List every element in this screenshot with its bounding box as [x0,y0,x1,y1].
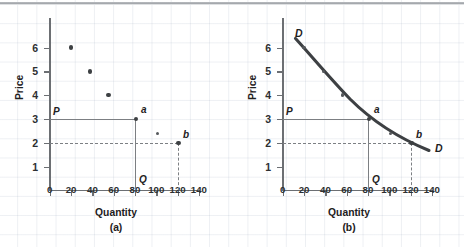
y-axis-line-a [49,18,51,190]
plot-area-b: 6 5 4 3 2 1 0 20 40 60 80 100 120 140 [233,0,464,247]
point-a-label-a: a [141,105,147,115]
price-reference-line-a [50,119,135,120]
y-tick-6-a [44,48,51,49]
y-axis-title-b: Price [247,75,258,100]
quantity-reference-line-a [135,119,136,190]
data-point-a-4 [134,117,138,121]
curve-point-b-1 [302,46,305,49]
y-tick-5-a [44,71,51,72]
price-label-a: P [53,107,60,117]
quantity-dashed-line-a [178,143,179,190]
data-point-a-1 [69,45,73,49]
data-point-a-2 [88,69,92,73]
y-axis-title-a: Price [14,75,25,100]
quantity-label-b: Q [372,175,380,185]
data-point-a-5 [156,132,159,135]
y-tick-label-3-a: 3 [12,114,38,125]
plot-area-a: 6 5 4 3 2 1 0 20 40 60 80 100 120 140 [0,0,232,247]
point-a-label-b: a [374,105,380,115]
curve-point-b-4 [367,117,371,121]
y-tick-label-1-a: 1 [12,162,38,173]
data-point-a-6 [176,141,180,145]
price-label-b: P [286,107,293,117]
demand-curve-label-top: D [295,28,303,39]
point-b-label-a: b [183,130,189,140]
point-b-label-b: b [416,130,422,140]
y-tick-4-a [44,95,51,96]
curve-point-b-6 [409,141,413,145]
x-tick-label-140-a: 140 [186,185,212,195]
y-tick-1-a [44,167,51,168]
y-tick-label-2-a: 2 [12,138,38,149]
price-dashed-line-a [50,143,178,144]
curve-point-b-3 [341,93,344,96]
quantity-label-a: Q [139,175,147,185]
chart-panel-a: 6 5 4 3 2 1 0 20 40 60 80 100 120 140 [0,0,232,247]
chart-panel-b: 6 5 4 3 2 1 0 20 40 60 80 100 120 140 [233,0,464,247]
data-point-a-3 [106,93,110,97]
y-tick-label-6-a: 6 [12,43,38,54]
panel-caption-b: (b) [233,222,464,233]
x-axis-title-b: Quantity [233,207,464,218]
demand-curve-label-bottom: D [435,143,443,154]
x-axis-title-a: Quantity [0,207,232,218]
panel-caption-a: (a) [0,222,232,233]
